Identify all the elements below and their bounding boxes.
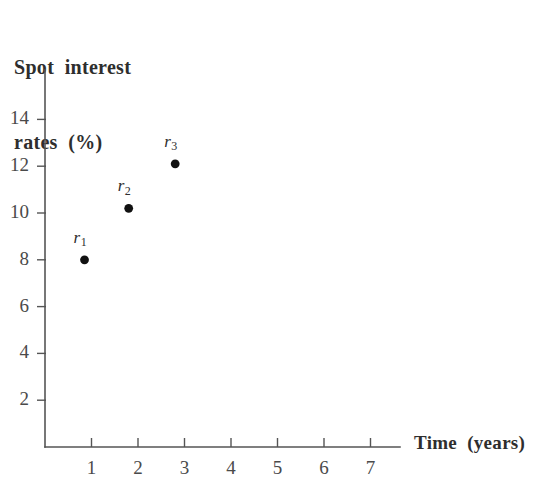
data-point-label-subscript: 3 <box>171 139 178 153</box>
chart-figure: Spot interest rates (%) Time (years) 246… <box>0 0 536 479</box>
x-tick-label: 6 <box>312 457 336 479</box>
x-tick-label: 2 <box>126 457 150 479</box>
y-tick-label: 14 <box>0 107 29 129</box>
y-tick-label: 4 <box>0 341 29 363</box>
y-tick-label: 6 <box>0 295 29 317</box>
data-point-marker <box>124 204 133 213</box>
data-points-group <box>80 159 179 264</box>
data-point-marker <box>171 159 180 168</box>
x-tick-label: 3 <box>173 457 197 479</box>
y-tick-label: 10 <box>0 201 29 223</box>
x-tick-label: 7 <box>359 457 383 479</box>
data-point-label-subscript: 2 <box>124 184 131 198</box>
y-tick-label: 12 <box>0 154 29 176</box>
tick-marks-group <box>37 119 371 447</box>
data-point-label-subscript: 1 <box>80 235 87 249</box>
x-tick-label: 4 <box>219 457 243 479</box>
data-point-label: r3 <box>164 132 177 154</box>
y-tick-label: 8 <box>0 248 29 270</box>
data-point-label-symbol: r <box>164 132 171 151</box>
x-tick-label: 5 <box>266 457 290 479</box>
y-tick-label: 2 <box>0 388 29 410</box>
axes-group <box>45 70 400 447</box>
x-tick-label: 1 <box>80 457 104 479</box>
data-point-label: r2 <box>118 176 131 198</box>
data-point-label: r1 <box>74 228 87 250</box>
data-point-marker <box>80 255 89 264</box>
